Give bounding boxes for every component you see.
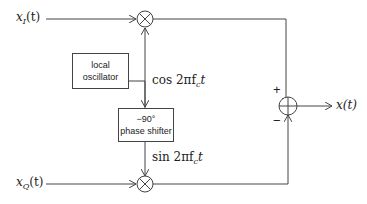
- diagram-wires: [0, 0, 367, 204]
- input-xI-label: xI(t): [16, 10, 40, 26]
- summer-icon: [279, 97, 297, 115]
- bottom-mixer-icon: [137, 176, 153, 192]
- local-oscillator-block: local oscillator: [72, 53, 129, 89]
- plus-sign: +: [273, 82, 281, 97]
- output-x-label: x(t): [336, 98, 357, 112]
- sin-carrier-label: sin 2πfct: [152, 150, 203, 166]
- input-xQ-label: xQ(t): [16, 175, 44, 191]
- top-mixer-icon: [137, 11, 153, 27]
- cos-carrier-label: cos 2πfct: [152, 73, 205, 89]
- phase-shifter-block: −90° phase shifter: [118, 108, 174, 142]
- minus-sign: −: [273, 113, 281, 128]
